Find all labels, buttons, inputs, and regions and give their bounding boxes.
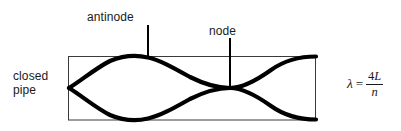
standing-wave-diagram: antinode node closedpipe λ = 4L n: [0, 0, 401, 131]
equals-symbol: =: [355, 76, 366, 92]
wavelength-equation: λ = 4L n: [347, 70, 383, 98]
fraction-numerator: 4L: [368, 70, 381, 84]
wave-lower-envelope: [69, 88, 316, 120]
closed-pipe-label-line2: pipe: [13, 83, 36, 97]
fraction-denominator: n: [372, 85, 378, 99]
closed-pipe-label: closedpipe: [13, 70, 48, 97]
diagram-graphics: [0, 0, 401, 131]
numerator-variable: L: [374, 69, 381, 83]
closed-pipe-label-line1: closed: [13, 69, 48, 83]
wave-upper-envelope: [69, 56, 316, 88]
node-label: node: [209, 25, 236, 38]
antinode-label: antinode: [87, 11, 134, 24]
lambda-symbol: λ: [347, 76, 355, 92]
fraction: 4L n: [366, 70, 383, 98]
